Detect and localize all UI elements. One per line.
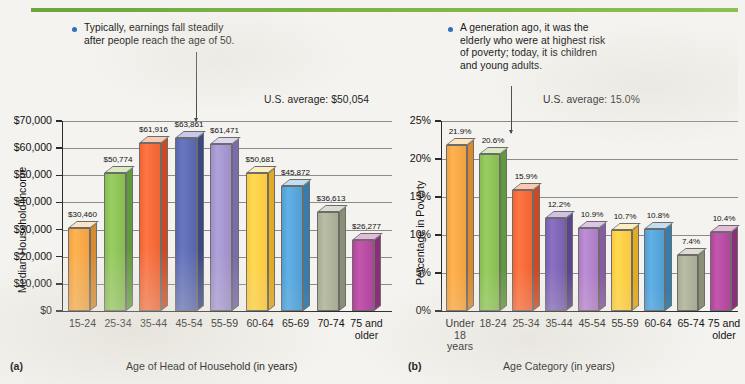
- plot-area-a: $0$10,000$20,000$30,000$40,000$50,000$60…: [62, 121, 392, 311]
- y-axis-tick: [56, 175, 62, 176]
- y-axis-tick: [435, 272, 441, 273]
- bar-45-54: [175, 138, 197, 311]
- bar-side-face: [126, 168, 133, 311]
- bar-side-face: [268, 168, 275, 311]
- panel-tag-a: (a): [10, 360, 23, 372]
- callout-b-text: A generation ago, it was the elderly who…: [460, 22, 633, 72]
- bar-value-label: $50,774: [98, 155, 139, 164]
- bar-60-64: [644, 229, 665, 311]
- us-average-a: U.S. average: $50,054: [264, 94, 369, 105]
- bar-side-face: [161, 137, 168, 311]
- bar-15-24: [68, 228, 90, 311]
- bar-front-face: [446, 145, 467, 311]
- bar-25-34: [104, 173, 126, 311]
- y-axis-tick-label: 15%: [410, 190, 431, 202]
- bar-value-label: 10.4%: [704, 214, 744, 223]
- y-axis-tick-label: 0%: [416, 304, 431, 316]
- bar-55-59: [611, 230, 632, 311]
- bar-value-label: 21.9%: [440, 127, 480, 136]
- x-axis-title-b: Age Category (in years): [503, 360, 615, 372]
- y-axis-tick: [56, 202, 62, 203]
- y-axis-tick: [56, 283, 62, 284]
- top-green-rule: [31, 8, 738, 12]
- bar-front-face: [352, 240, 374, 311]
- bar-front-face: [246, 173, 268, 311]
- bar-18-24: [479, 154, 500, 311]
- bar-70-74: [317, 212, 339, 311]
- y-axis-tick-label: $50,000: [14, 168, 52, 180]
- bar-front-face: [545, 218, 566, 311]
- gridline: [441, 121, 738, 122]
- chart-panel-b: A generation ago, it was the elderly who…: [400, 0, 738, 384]
- bar-55-59: [210, 144, 232, 311]
- bar-75-and-older: [710, 232, 731, 311]
- bar-side-face: [303, 181, 310, 311]
- y-axis-tick-label: $70,000: [14, 114, 52, 126]
- bar-side-face: [467, 139, 474, 311]
- bar-front-face: [104, 173, 126, 311]
- bar-side-face: [90, 223, 97, 311]
- bar-front-face: [210, 144, 232, 311]
- bar-value-label: 10.8%: [638, 211, 678, 220]
- bar-side-face: [232, 139, 239, 311]
- bar-under-18-years: [446, 145, 467, 311]
- chart-panel-a: Typically, earnings fall steadily after …: [0, 0, 400, 384]
- y-axis-tick: [435, 310, 441, 311]
- bar-45-54: [578, 228, 599, 311]
- bar-front-face: [512, 190, 533, 311]
- bar-value-label: 20.6%: [473, 136, 513, 145]
- y-axis-tick-label: $0: [40, 304, 52, 316]
- bar-35-44: [545, 218, 566, 311]
- bar-side-face: [197, 132, 204, 311]
- y-axis-tick: [56, 120, 62, 121]
- callout-a: Typically, earnings fall steadily after …: [72, 22, 287, 47]
- bar-front-face: [281, 186, 303, 311]
- bar-value-label: 7.4%: [671, 237, 711, 246]
- y-axis-tick-label: 5%: [416, 266, 431, 278]
- bar-side-face: [566, 213, 573, 311]
- callout-b: A generation ago, it was the elderly who…: [448, 22, 633, 72]
- panel-tag-b: (b): [408, 360, 422, 372]
- plot-area-b: 0%5%10%15%20%25%21.9%Under 18 years20.6%…: [441, 121, 738, 311]
- y-axis-tick: [435, 196, 441, 197]
- us-average-b: U.S. average: 15.0%: [543, 94, 640, 105]
- x-axis-category-label: 75 and older: [701, 318, 745, 341]
- bar-front-face: [644, 229, 665, 311]
- bar-side-face: [599, 223, 606, 311]
- y-axis-tick-label: 10%: [410, 228, 431, 240]
- bar-front-face: [710, 232, 731, 311]
- y-axis-tick-label: $60,000: [14, 141, 52, 153]
- bar-front-face: [68, 228, 90, 311]
- bar-side-face: [339, 206, 346, 311]
- callout-a-text: Typically, earnings fall steadily after …: [84, 22, 287, 47]
- y-axis-tick: [435, 120, 441, 121]
- bar-value-label: $61,471: [204, 126, 245, 135]
- bar-front-face: [479, 154, 500, 311]
- bar-front-face: [611, 230, 632, 311]
- y-axis-tick: [435, 234, 441, 235]
- y-axis-tick-label: $10,000: [14, 277, 52, 289]
- y-axis-tick: [435, 158, 441, 159]
- callout-b-leader-line: [511, 86, 512, 133]
- bar-front-face: [317, 212, 339, 311]
- bar-side-face: [374, 234, 381, 311]
- y-axis-tick: [56, 310, 62, 311]
- bar-60-64: [246, 173, 268, 311]
- bar-value-label: $26,277: [346, 222, 387, 231]
- y-axis-tick-label: 25%: [410, 114, 431, 126]
- bar-front-face: [175, 138, 197, 311]
- bar-value-label: $30,460: [62, 210, 103, 219]
- bar-25-34: [512, 190, 533, 311]
- bar-side-face: [698, 249, 705, 311]
- gridline: [62, 121, 392, 122]
- bar-value-label: 15.9%: [506, 172, 546, 181]
- y-axis-line: [441, 121, 442, 312]
- x-axis-line: [62, 311, 392, 312]
- bar-side-face: [731, 226, 738, 311]
- bar-value-label: 12.2%: [539, 200, 579, 209]
- bullet-dot-icon: [448, 27, 453, 32]
- y-axis-tick-label: $30,000: [14, 223, 52, 235]
- bar-front-face: [677, 255, 698, 311]
- callout-a-leader-line: [196, 52, 197, 121]
- bar-value-label: $36,613: [311, 194, 352, 203]
